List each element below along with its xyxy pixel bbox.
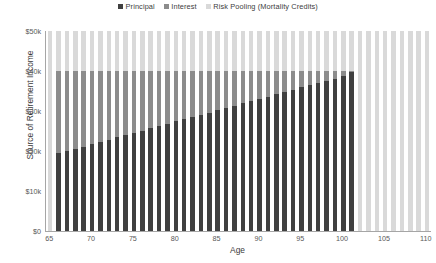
bar-segment [299, 71, 303, 87]
bar-segment [257, 71, 261, 99]
bar-stack [81, 31, 85, 231]
bar-stack [224, 31, 228, 231]
bar-segment [224, 71, 228, 108]
bar-column [255, 31, 263, 231]
legend-label-principal: Principal [126, 3, 155, 10]
bar-segment [65, 151, 69, 231]
bar-stack [140, 31, 144, 231]
bar-segment [299, 31, 303, 71]
bar-stack [358, 31, 362, 231]
bar-column [398, 31, 406, 231]
y-axis-tick-label: $0 [1, 227, 41, 236]
bar-column [322, 31, 330, 231]
bar-segment [73, 71, 77, 149]
bar-column [297, 31, 305, 231]
bar-segment [123, 71, 127, 135]
bar-stack [90, 31, 94, 231]
bar-segment [132, 31, 136, 71]
bar-stack [174, 31, 178, 231]
x-axis-title: Age [45, 245, 430, 255]
bar-column [247, 31, 255, 231]
bar-column [239, 31, 247, 231]
bar-segment [375, 31, 379, 231]
bar-segment [90, 71, 94, 144]
bar-segment [81, 31, 85, 71]
bar-segment [383, 31, 387, 231]
bar-segment [157, 71, 161, 126]
bar-stack [391, 31, 395, 231]
bar-segment [98, 71, 102, 142]
bar-stack [425, 31, 429, 231]
bar-segment [341, 31, 345, 71]
bar-column [96, 31, 104, 231]
bar-segment [199, 115, 203, 231]
chart-legend: Principal Interest Risk Pooling (Mortali… [0, 3, 436, 10]
x-axis-tick-label: 75 [129, 234, 137, 243]
plot-area [45, 31, 431, 232]
bar-stack [333, 31, 337, 231]
bar-column [306, 31, 314, 231]
bar-segment [148, 71, 152, 128]
bar-stack [107, 31, 111, 231]
bar-segment [115, 31, 119, 71]
bar-column [130, 31, 138, 231]
bar-stack [274, 31, 278, 231]
bar-stack [416, 31, 420, 231]
bar-segment [257, 99, 261, 231]
legend-item-interest: Interest [164, 3, 197, 10]
bar-stack [257, 31, 261, 231]
bar-segment [408, 31, 412, 231]
bar-segment [207, 71, 211, 113]
bar-segment [291, 31, 295, 71]
bar-segment [333, 79, 337, 231]
bar-segment [274, 31, 278, 71]
legend-label-risk-pooling: Risk Pooling (Mortality Credits) [213, 3, 318, 10]
bar-column [155, 31, 163, 231]
bar-segment [107, 31, 111, 71]
bar-column [172, 31, 180, 231]
bar-segment [199, 71, 203, 115]
bar-segment [107, 71, 111, 140]
bar-segment [416, 31, 420, 231]
bar-stack [299, 31, 303, 231]
bar-stack [408, 31, 412, 231]
bar-segment [182, 119, 186, 231]
bar-stack [199, 31, 203, 231]
bar-segment [333, 71, 337, 79]
bar-stack [56, 31, 60, 231]
bar-stack [232, 31, 236, 231]
bar-stack [249, 31, 253, 231]
bar-column [214, 31, 222, 231]
bar-segment [199, 31, 203, 71]
bar-stack [375, 31, 379, 231]
bar-segment [291, 90, 295, 231]
bar-stack [400, 31, 404, 231]
y-axis-tick-label: $30k [1, 107, 41, 116]
bar-column [289, 31, 297, 231]
bar-segment [324, 71, 328, 81]
bar-segment [132, 133, 136, 231]
retirement-income-stacked-bar-chart: Principal Interest Risk Pooling (Mortali… [0, 0, 436, 263]
bar-column [331, 31, 339, 231]
x-axis-tick-label: 110 [420, 234, 431, 243]
bar-series-container [46, 31, 431, 231]
bar-segment [98, 142, 102, 231]
bar-segment [81, 71, 85, 147]
bar-segment [73, 149, 77, 231]
bar-column [339, 31, 347, 231]
bar-segment [291, 71, 295, 90]
bar-segment [308, 71, 312, 85]
bar-segment [98, 31, 102, 71]
bar-segment [299, 87, 303, 231]
bar-segment [316, 71, 320, 83]
bar-segment [308, 85, 312, 231]
bar-column [373, 31, 381, 231]
bar-segment [165, 31, 169, 71]
bar-segment [249, 71, 253, 101]
bar-segment [341, 76, 345, 231]
bar-segment [56, 71, 60, 153]
bar-column [88, 31, 96, 231]
legend-label-interest: Interest [171, 3, 196, 10]
bar-segment [140, 131, 144, 231]
bar-segment [232, 71, 236, 106]
